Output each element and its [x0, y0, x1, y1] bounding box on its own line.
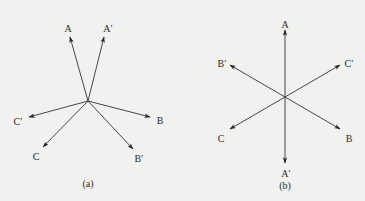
vector-arrow-a	[70, 37, 88, 101]
vector-arrow-b-prime	[230, 65, 285, 97]
panel-a: AA′BB′CC′(a)	[14, 23, 164, 190]
vector-arrow-b	[88, 101, 150, 117]
panel-caption: (a)	[82, 178, 93, 190]
panel-b: AA′B′C′CB(b)	[218, 19, 354, 192]
panel-caption: (b)	[279, 180, 291, 192]
vector-arrow-c-prime	[29, 101, 88, 117]
vector-label-c-prime: C′	[14, 116, 23, 127]
vector-arrow-b	[285, 97, 340, 129]
vector-label-b-prime: B′	[135, 153, 144, 164]
vector-label-c-prime: C′	[345, 58, 354, 69]
phasor-diagram-figure: AA′BB′CC′(a) AA′B′C′CB(b)	[0, 0, 365, 201]
phasor-diagram-svg: AA′BB′CC′(a) AA′B′C′CB(b)	[0, 0, 365, 201]
vector-label-a-prime: A′	[281, 168, 290, 179]
vector-arrow-a-prime	[88, 37, 104, 101]
vector-label-b-prime: B′	[218, 58, 227, 69]
vector-label-a: A	[64, 23, 72, 34]
vector-arrow-c-prime	[285, 65, 340, 97]
vector-label-c: C	[33, 151, 40, 162]
vector-arrow-c	[43, 101, 88, 147]
vector-label-a: A	[281, 19, 289, 30]
vector-label-b: B	[346, 133, 353, 144]
vector-label-b: B	[157, 115, 164, 126]
vector-arrow-b-prime	[88, 101, 133, 149]
vector-arrow-c	[230, 97, 285, 129]
vector-label-c: C	[218, 133, 225, 144]
vector-label-a-prime: A′	[103, 23, 112, 34]
